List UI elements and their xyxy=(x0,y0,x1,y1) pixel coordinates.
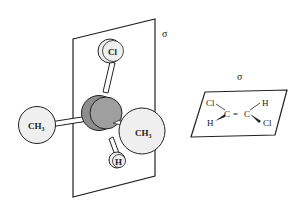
symmetry-plane-diagram: σ Cl CH3 H CH3 σ xyxy=(0,0,300,208)
atom-h-bottom: H xyxy=(109,152,126,168)
svg-text:C: C xyxy=(224,109,230,119)
svg-text:=: = xyxy=(233,109,238,119)
atom-central-carbon xyxy=(82,96,123,131)
atom-ch3-left: CH3 xyxy=(19,107,56,144)
atom-ch3-right: CH3 xyxy=(119,108,165,154)
sigma-label-left: σ xyxy=(162,28,168,39)
svg-text:Cl: Cl xyxy=(263,118,272,128)
sigma-label-right: σ xyxy=(237,71,243,82)
atom-cl-top: Cl xyxy=(98,39,124,63)
svg-text:H: H xyxy=(207,118,214,128)
dichloroethene-structure: Cl H C = C H Cl xyxy=(206,98,272,128)
svg-text:H: H xyxy=(262,98,269,108)
svg-text:Cl: Cl xyxy=(108,47,117,57)
svg-text:C: C xyxy=(244,109,250,119)
svg-text:Cl: Cl xyxy=(206,98,215,108)
svg-text:H: H xyxy=(115,157,122,167)
